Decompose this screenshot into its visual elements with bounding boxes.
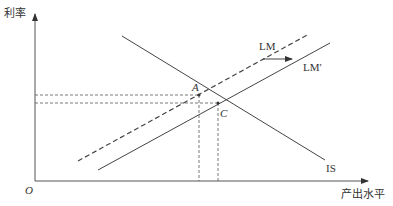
is-label: IS: [326, 162, 336, 174]
is-lm-diagram: 利率 产出水平 O IS LM LM′ A C: [0, 0, 393, 206]
point-a-label: A: [191, 81, 199, 93]
lm-prime-label: LM′: [303, 61, 322, 73]
y-axis-label: 利率: [4, 6, 26, 20]
lm-prime-curve: [98, 43, 330, 170]
lm-curve: [78, 34, 309, 161]
is-curve: [122, 36, 325, 160]
origin-label: O: [25, 184, 33, 196]
point-a: [198, 94, 201, 97]
point-c: [217, 102, 220, 105]
x-axis-label: 产出水平: [341, 187, 385, 201]
point-c-label: C: [220, 107, 228, 119]
lm-label: LM: [259, 40, 276, 52]
